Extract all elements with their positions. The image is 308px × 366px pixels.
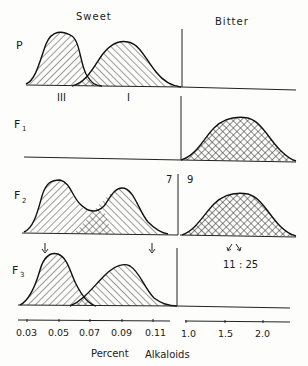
tick-1-5: 1.5 [218,328,233,339]
row-label-f1: F [14,118,20,131]
panel-p: P III I [16,29,296,103]
tick-2-0: 2.0 [255,328,270,339]
panel-f2: F 2 7 9 [14,174,296,237]
distribution-chart: Sweet Bitter P III I F 1 F 2 [0,0,308,366]
x-axis-bitter: 1.0 1.5 2.0 [181,320,290,339]
row-label-f2: F [14,189,20,202]
peak-label-iii: III [57,92,66,103]
tick-0-05: 0.05 [48,327,69,338]
ratio-left: 7 [166,174,172,185]
arrow-down-icon [42,243,48,253]
header-bitter: Bitter [215,16,249,27]
tick-0-03: 0.03 [16,327,37,338]
tick-0-07: 0.07 [79,327,100,338]
row-label-p: P [16,39,23,52]
x-axis-label-percent: Percent [91,348,129,359]
x-axis-sweet: 0.03 0.05 0.07 0.09 0.11 [16,319,170,338]
arrow-diagonal-icon [227,244,232,251]
ratio-f3: 11 : 25 [223,259,258,270]
tick-0-11: 0.11 [145,327,166,338]
x-axis-label-alkaloids: Alkaloids [145,349,190,360]
header-sweet: Sweet [76,11,112,22]
row-sub-f1: 1 [22,125,26,133]
panel-f1: F 1 [14,100,296,162]
arrow-diagonal-icon [236,244,241,251]
arrow-down-icon [149,243,155,253]
panel-f3: F 3 11 : 25 [12,243,290,308]
figure: Sweet Bitter P III I F 1 F 2 [0,0,308,366]
tick-0-09: 0.09 [111,327,132,338]
ratio-right: 9 [187,174,193,185]
row-sub-f2: 2 [22,197,26,205]
peak-label-i: I [127,92,130,103]
row-label-f3: F [12,264,18,277]
row-sub-f3: 3 [20,271,24,279]
tick-1-0: 1.0 [181,328,196,339]
